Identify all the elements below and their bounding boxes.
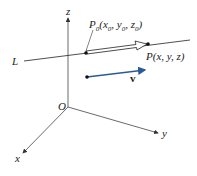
point-p — [146, 42, 150, 46]
line-label: L — [11, 55, 18, 67]
vector-line-diagram: z y x O L P0(x0, y0, z0) P(x, y, z) v — [0, 0, 197, 176]
origin-label: O — [58, 100, 66, 112]
p-label: P(x, y, z) — [145, 50, 185, 63]
y-axis-label: y — [161, 127, 167, 139]
x-axis-label: x — [14, 152, 20, 164]
point-p0 — [84, 51, 88, 55]
vector-v — [87, 70, 145, 77]
x-axis — [23, 107, 68, 153]
vector-v-tail — [85, 75, 89, 79]
z-axis-label: z — [65, 5, 71, 17]
hollow-arrow — [86, 41, 147, 54]
p0-leader — [86, 30, 93, 51]
y-axis — [68, 107, 158, 133]
vector-label: v — [130, 72, 136, 84]
p0-label: P0(x0, y0, z0) — [88, 18, 142, 33]
